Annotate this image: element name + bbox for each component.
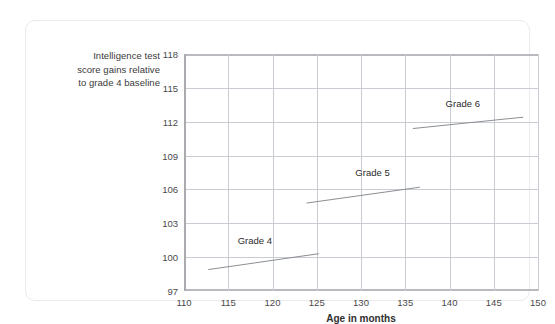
x-tick-label: 130	[353, 297, 369, 308]
y-axis-title-line-2: score gains relative	[38, 63, 160, 77]
y-axis-title-line-3: to grade 4 baseline	[38, 76, 160, 90]
y-tick-label: 112	[163, 116, 178, 127]
plot-area: 9710010310610911211511811011512012513013…	[184, 54, 538, 291]
y-tick-label: 118	[163, 49, 178, 60]
series-label: Grade 6	[446, 98, 480, 109]
x-tick-label: 135	[397, 297, 413, 308]
x-axis-title: Age in months	[184, 313, 538, 324]
x-tick-label: 120	[265, 297, 281, 308]
y-axis-title-line-1: Intelligence test	[38, 49, 160, 63]
series-label: Grade 4	[238, 235, 272, 246]
y-tick-label: 109	[162, 150, 178, 161]
x-tick-label: 125	[309, 297, 325, 308]
x-tick-label: 115	[221, 297, 236, 308]
y-tick-label: 115	[163, 82, 178, 93]
y-axis-title: Intelligence test score gains relative t…	[38, 49, 160, 90]
x-tick-label: 145	[486, 297, 502, 308]
y-tick-label: 103	[162, 218, 178, 229]
series-annotation-layer: Grade 4Grade 5Grade 6	[184, 54, 538, 291]
gridline-vertical	[538, 54, 539, 291]
y-tick-label: 97	[167, 286, 178, 297]
y-tick-label: 100	[162, 252, 178, 263]
series-label: Grade 5	[355, 167, 389, 178]
x-tick-label: 140	[442, 297, 458, 308]
x-tick-label: 110	[176, 297, 191, 308]
x-tick-label: 150	[530, 297, 546, 308]
y-tick-label: 106	[162, 184, 178, 195]
chart-card: Intelligence test score gains relative t…	[25, 20, 530, 301]
